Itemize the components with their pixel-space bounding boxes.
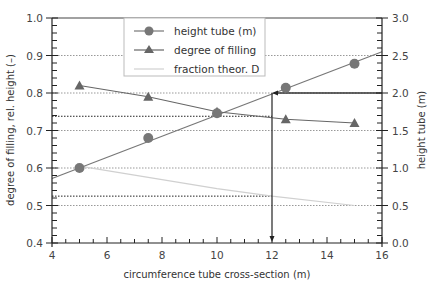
legend-circle-icon bbox=[145, 27, 154, 36]
x-tick-label: 10 bbox=[210, 249, 223, 261]
y-right-tick-label: 1.5 bbox=[392, 125, 409, 137]
x-tick-label: 4 bbox=[49, 249, 56, 261]
y-left-tick-label: 0.7 bbox=[26, 125, 43, 137]
legend-label: height tube (m) bbox=[174, 25, 256, 37]
x-tick-label: 14 bbox=[320, 249, 334, 261]
y-right-tick-label: 0.0 bbox=[392, 237, 409, 249]
y-right-tick-label: 0.5 bbox=[392, 200, 409, 212]
y-left-axis-title: degree of filling, rel. height (–) bbox=[5, 54, 16, 206]
legend-label: degree of filling bbox=[174, 44, 256, 56]
y-left-tick-label: 0.6 bbox=[26, 162, 43, 174]
circle-marker-icon bbox=[143, 133, 153, 143]
x-tick-label: 6 bbox=[104, 249, 111, 261]
circle-marker-icon bbox=[75, 163, 85, 173]
circle-marker-icon bbox=[281, 83, 291, 93]
y-left-tick-label: 0.4 bbox=[26, 237, 43, 249]
plot-area bbox=[52, 52, 382, 242]
x-tick-label: 8 bbox=[159, 249, 166, 261]
y-right-tick-label: 3.0 bbox=[392, 12, 409, 24]
y-right-tick-label: 2.0 bbox=[392, 87, 409, 99]
triangle-marker-icon bbox=[75, 81, 85, 90]
y-left-tick-label: 0.9 bbox=[26, 50, 43, 62]
circle-marker-icon bbox=[350, 59, 360, 69]
series-fraction-theor-d bbox=[80, 166, 355, 205]
x-tick-label: 12 bbox=[265, 249, 278, 261]
y-right-tick-label: 1.0 bbox=[392, 162, 409, 174]
legend-label: fraction theor. D bbox=[174, 63, 259, 75]
y-left-tick-label: 0.8 bbox=[26, 87, 43, 99]
x-tick-label: 16 bbox=[375, 249, 389, 261]
legend: height tube (m)degree of fillingfraction… bbox=[124, 18, 265, 76]
x-axis-title: circumference tube cross-section (m) bbox=[124, 269, 311, 280]
circle-marker-icon bbox=[212, 108, 222, 118]
grid-lines bbox=[52, 56, 382, 206]
y-left-tick-label: 1.0 bbox=[26, 12, 43, 24]
y-left-tick-label: 0.5 bbox=[26, 200, 43, 212]
y-right-tick-label: 2.5 bbox=[392, 50, 409, 62]
arrow-left-head-icon bbox=[272, 91, 278, 96]
chart: 468101214160.40.50.60.70.80.91.00.00.51.… bbox=[0, 0, 435, 293]
y-right-axis-title: height tube (m) bbox=[416, 91, 427, 170]
